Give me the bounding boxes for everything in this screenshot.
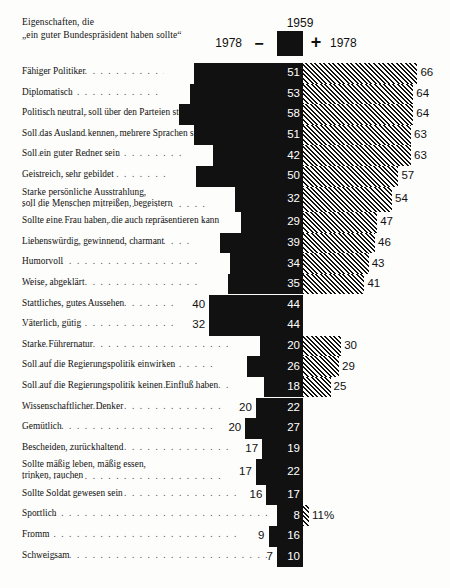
table-row: Soll auf die Regierungspolitik keinen Ei…: [0, 377, 450, 398]
leader-dots: . . . . . . . . . . . . . . . . . . . . …: [22, 277, 198, 289]
value-1978: 30: [344, 339, 357, 351]
table-row: Väterlich, gütig. . . . . . . . . . . . …: [0, 315, 450, 336]
value-1978: 64: [416, 107, 429, 119]
table-row: Diplomatisch. . . . . . . . . . . . . . …: [0, 84, 450, 105]
leader-dots: . . . . . . . . . . . . . . . . . . . . …: [22, 256, 200, 268]
table-row: Stattliches, gutes Aussehen. . . . . . .…: [0, 295, 450, 316]
plus-icon: +: [306, 33, 326, 51]
bar-1978: [303, 166, 398, 187]
legend-center-year: 1959: [277, 16, 323, 30]
bar-1959-left: [241, 212, 279, 233]
value-1959: 34: [277, 257, 300, 269]
leader-dots: . . . . . . . . . . . . . . . . . . . . …: [22, 488, 236, 500]
table-row: Sollte mäßig leben, mäßig essen, trinken…: [0, 459, 450, 485]
table-row: Liebenswürdig, gewinnend, charmant. . . …: [0, 233, 450, 254]
bar-1959-left: [228, 274, 279, 295]
value-1978: 32: [175, 318, 205, 330]
leader-dots: . . . . . . . . . . . . . . . . . . . . …: [22, 508, 273, 520]
survey-chart: Eigenschaften, die „ein guter Bundespräs…: [0, 0, 450, 588]
value-1959: 29: [277, 215, 300, 227]
bar-1959-left: [230, 253, 279, 274]
leader-dots: . . . . . . . . . . . . . . . . . . . . …: [22, 215, 211, 227]
table-row: Schweigsam. . . . . . . . . . . . . . . …: [0, 547, 450, 568]
leader-dots: . . . . . . . . . . . . . . . . . . . . …: [22, 401, 226, 413]
bar-1978: [303, 125, 411, 146]
value-1959: 44: [277, 298, 300, 310]
leader-dots: . . . . . . . . . . . . . . . . . . . . …: [22, 298, 179, 310]
value-1959: 44: [277, 318, 300, 330]
leader-dots: . . . . . . . . . . . . . . . . . . . . …: [22, 339, 230, 351]
leader-dots: . . . . . . . . . . . . . . . . . . . . …: [22, 318, 179, 330]
table-row: Fromm. . . . . . . . . . . . . . . . . .…: [0, 526, 450, 547]
minus-icon: −: [249, 36, 269, 51]
value-1959: 16: [277, 529, 300, 541]
leader-dots: . . . . . . . . . . . . . . . . . . . . …: [22, 236, 190, 248]
value-1959: 22: [277, 465, 300, 477]
value-1978: 20: [222, 401, 252, 413]
leader-dots: . . . . . . . . . . . . . . . . . . . . …: [22, 169, 166, 181]
table-row: Sportlich. . . . . . . . . . . . . . . .…: [0, 505, 450, 526]
value-1959: 19: [277, 442, 300, 454]
leader-dots: . . . . . . . . . . . . . . . . . . . . …: [22, 128, 164, 140]
value-1978: 54: [395, 192, 408, 204]
bar-1978: [303, 187, 392, 213]
value-1959: 10: [277, 550, 300, 562]
table-row: Wissenschaftlicher Denker. . . . . . . .…: [0, 398, 450, 419]
table-row: Bescheiden, zurückhaltend. . . . . . . .…: [0, 439, 450, 460]
value-1959: 53: [277, 87, 300, 99]
table-row: Gemütlich. . . . . . . . . . . . . . . .…: [0, 418, 450, 439]
bar-1959-left: [196, 166, 279, 187]
bar-1959-left: [194, 63, 279, 84]
value-1978: 40: [175, 298, 205, 310]
value-1978: 66: [420, 66, 433, 78]
value-1959: 22: [277, 401, 300, 413]
leader-dots: . . . . . . . . . . . . . . . . . . . . …: [22, 471, 226, 483]
bar-1959-left: [209, 315, 279, 336]
leader-dots: . . . . . . . . . . . . . . . . . . . . …: [22, 550, 273, 562]
bar-1978: [303, 233, 375, 254]
bar-1959-left: [213, 145, 279, 166]
bar-1978: [303, 336, 341, 357]
value-1978: 64: [416, 87, 429, 99]
value-1959: 20: [277, 339, 300, 351]
leader-dots: . . . . . . . . . . . . . . . . . . . . …: [22, 442, 232, 454]
table-row: Starke Führernatur. . . . . . . . . . . …: [0, 336, 450, 357]
bar-1978: [303, 377, 331, 398]
leader-dots: . . . . . . . . . . . . . . . . . . . . …: [22, 107, 149, 119]
legend-right-year: 1978: [330, 36, 357, 50]
value-1959: 42: [277, 149, 300, 161]
bar-1959-left: [194, 125, 279, 146]
value-1978: 9: [235, 529, 265, 541]
bar-1978: [303, 505, 309, 526]
leader-dots: . . . . . . . . . . . . . . . . . . . . …: [22, 148, 183, 160]
value-1978: 20: [211, 421, 241, 433]
value-1959: 8: [277, 509, 300, 521]
legend-black-swatch: [277, 31, 303, 56]
leader-dots: . . . . . . . . . . . . . . . . . . . . …: [22, 529, 239, 541]
value-1978: 7: [243, 550, 273, 562]
bar-1959-left: [256, 459, 279, 485]
bar-1959-left: [209, 295, 279, 316]
bar-1978: [303, 274, 364, 295]
table-row: Soll das Ausland kennen, mehrere Sprache…: [0, 125, 450, 146]
legend-left-year: 1978: [196, 36, 242, 50]
leader-dots: . . . . . . . . . . . . . . . . . . . . …: [22, 66, 164, 78]
leader-dots: . . . . . . . . . . . . . . . . . . . . …: [22, 87, 160, 99]
value-1959: 27: [277, 421, 300, 433]
table-row: Starke persönliche Ausstrahlung, soll di…: [0, 187, 450, 213]
value-1978: 47: [380, 215, 393, 227]
table-row: Humorvoll. . . . . . . . . . . . . . . .…: [0, 253, 450, 274]
bar-1959-left: [179, 104, 279, 125]
bar-1978: [303, 145, 411, 166]
value-1959: 51: [277, 128, 300, 140]
table-row: Weise, abgeklärt. . . . . . . . . . . . …: [0, 274, 450, 295]
bar-1978: [303, 104, 413, 125]
table-row: Sollte Soldat gewesen sein. . . . . . . …: [0, 485, 450, 506]
leader-dots: . . . . . . . . . . . . . . . . . . . . …: [22, 359, 217, 371]
value-1978: 46: [378, 236, 391, 248]
table-row: Sollte eine Frau haben, die auch repräse…: [0, 212, 450, 233]
value-1959: 26: [277, 360, 300, 372]
bar-1978: [303, 356, 339, 377]
leader-dots: . . . . . . . . . . . . . . . . . . . . …: [22, 421, 215, 433]
value-1978: 16: [232, 488, 262, 500]
